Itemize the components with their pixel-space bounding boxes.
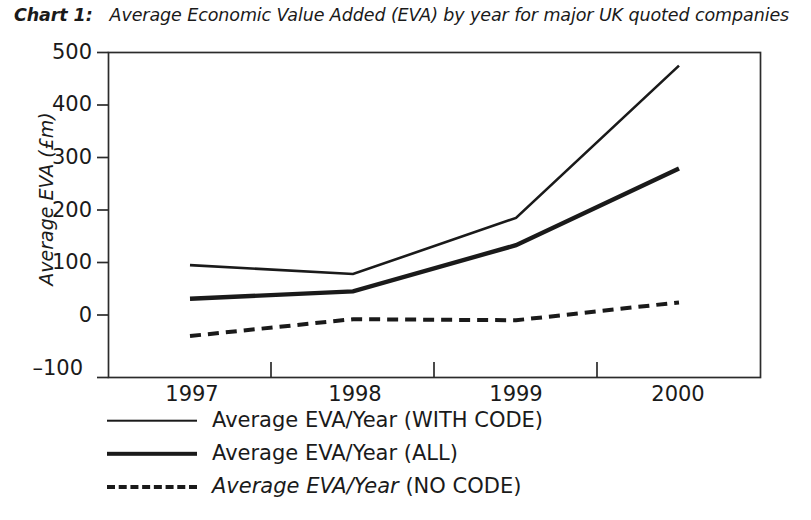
x-axis-ticks: [271, 362, 597, 378]
legend-swatch-line-thin-icon: [104, 412, 200, 430]
series-line-3: [190, 302, 679, 336]
legend-item-all[interactable]: Average EVA/Year (ALL): [104, 437, 724, 470]
legend-item-no-code[interactable]: Average EVA/Year (NO CODE): [104, 470, 724, 503]
series-line-2: [190, 169, 679, 299]
chart-plot-area: Average EVA (£m) 500 400 300 200 100 0 –…: [0, 28, 811, 388]
series-line-1: [190, 66, 679, 274]
legend-label-all: Average EVA/Year (ALL): [212, 443, 458, 464]
data-series-layer: [190, 66, 679, 336]
legend-swatch-line-thick-icon: [104, 445, 200, 463]
legend-label-no-code-plain: (NO CODE): [399, 474, 522, 498]
chart-caption-text: Average Economic Value Added (EVA) by ye…: [110, 5, 790, 25]
legend-label-no-code-italic: Average EVA/Year: [212, 474, 399, 498]
legend-swatch-line-dashed-icon: [104, 478, 200, 496]
y-axis-ticks: [97, 53, 109, 378]
legend-label-no-code: Average EVA/Year (NO CODE): [212, 476, 521, 497]
plot-frame: [109, 53, 761, 378]
chart-legend: Average EVA/Year (WITH CODE) Average EVA…: [104, 404, 724, 503]
chart-svg: [0, 28, 811, 388]
chart-caption-label: Chart 1:: [14, 5, 93, 25]
chart-caption: Chart 1: Average Economic Value Added (E…: [14, 2, 804, 28]
legend-item-with-code[interactable]: Average EVA/Year (WITH CODE): [104, 404, 724, 437]
legend-label-with-code: Average EVA/Year (WITH CODE): [212, 410, 543, 431]
